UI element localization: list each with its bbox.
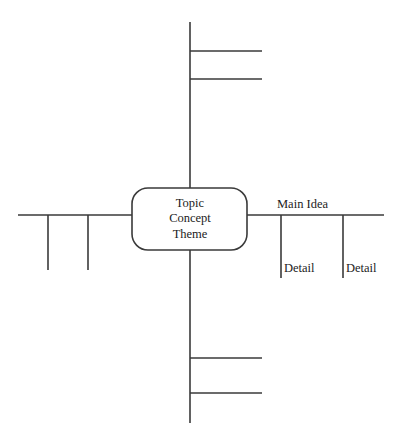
right-branch-detail-label-1: Detail xyxy=(284,262,315,275)
center-node-line-2: Concept xyxy=(169,212,211,226)
right-branch-main-idea-label: Main Idea xyxy=(277,198,328,211)
right-branch-detail-label-2: Detail xyxy=(346,262,377,275)
concept-map-diagram: Topic Concept Theme Main Idea Detail Det… xyxy=(0,0,394,435)
center-node-line-3: Theme xyxy=(173,228,208,242)
center-node-text: Topic Concept Theme xyxy=(132,188,248,250)
center-node-line-1: Topic xyxy=(176,197,204,211)
